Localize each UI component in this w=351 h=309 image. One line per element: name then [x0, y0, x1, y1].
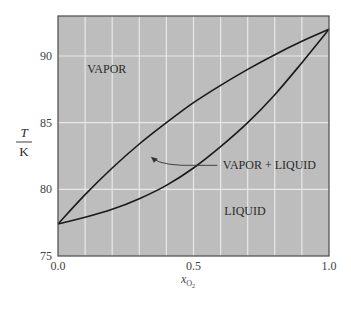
y-tick-label: 90 [40, 49, 52, 63]
x-tick-label: 0.0 [51, 259, 66, 273]
svg-text:xO2: xO2 [180, 272, 195, 289]
region-label-vapor-liquid: VAPOR + LIQUID [223, 158, 317, 172]
region-label-vapor: VAPOR [87, 62, 126, 76]
x-axis-label: xO2 [180, 272, 195, 289]
chart-canvas: 75808590 0.00.51.0 VAPORVAPOR + LIQUIDLI… [0, 0, 351, 309]
phase-diagram-chart: 75808590 0.00.51.0 VAPORVAPOR + LIQUIDLI… [0, 0, 351, 309]
x-axis-label-subsub: 2 [192, 283, 195, 289]
y-axis-label: T K [16, 125, 32, 159]
y-tick-label: 85 [40, 116, 52, 130]
y-axis-tick-labels: 75808590 [40, 49, 52, 263]
y-axis-label-numerator: T [20, 125, 28, 140]
x-tick-label: 0.5 [186, 259, 201, 273]
y-tick-label: 80 [40, 182, 52, 196]
region-label-liquid: LIQUID [224, 204, 266, 218]
y-axis-label-denominator: K [19, 144, 29, 159]
x-axis-tick-labels: 0.00.51.0 [51, 259, 337, 273]
x-tick-label: 1.0 [322, 259, 337, 273]
